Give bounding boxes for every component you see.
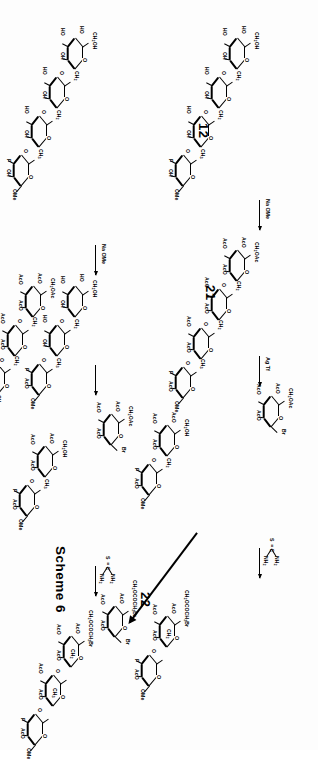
struct-donor-left-bond-c1-sub (271, 427, 278, 434)
struct-21-ring-2-c3-label: HO (42, 67, 47, 75)
struct-21-ring-1-c4-label: HO (79, 26, 84, 34)
struct-peracetyl-right-ring-2-bond-c6 (23, 330, 29, 335)
struct-partial-right-ring-3-c6-label: CH3 (54, 358, 61, 368)
struct-21-ring-1-c3-label: HO (60, 28, 65, 36)
struct-peracetyl-right-ring-2-c6-label: CH2 (30, 317, 37, 327)
struct-peracetyl-ring-4-c4-label: O (185, 361, 190, 365)
struct-peracetyl-right-ring-3-c4-label: O (0, 358, 4, 362)
struct-bromoacetate-right-ring-2-bond-c6 (61, 680, 67, 685)
struct-21-ring-3-c3-label: HO (24, 106, 29, 114)
struct-bromoacetate-right-ring-1-c6-label: CH2OCOCH2Br (86, 610, 93, 647)
struct-12-ring-1-c3-label: HO (222, 28, 227, 36)
struct-21-ring-3-c2-label: OH (24, 130, 29, 138)
struct-12-ring-2-c3-label: HO (204, 67, 209, 75)
struct-partial-right-ring-1-c3-label: HO (60, 276, 65, 284)
struct-peracetyl-ring-4-anomeric-label: OMe (174, 401, 179, 412)
struct-bromoacetate-right-ring-2-bond-c1-c2 (45, 696, 54, 706)
struct-22-c4-label: AcO (119, 593, 124, 604)
struct-22-bond-c2-c3 (107, 615, 109, 628)
compound-number-12: 12 (196, 123, 211, 138)
struct-acceptor-right-ring-2-c3-label: F (12, 489, 17, 492)
struct-bromoacetate-right-ring-1-c3-label: AcO (56, 624, 61, 635)
struct-21-ring-1-oxygen: O (82, 58, 87, 63)
struct-21-ring-4-c6-label: CH3 (36, 149, 43, 159)
struct-22-c2-label: AcO (100, 620, 105, 631)
struct-21-ring-3-bond-c2-c3 (31, 125, 33, 138)
struct-21-ring-4-c4-label: O (23, 149, 28, 153)
struct-acceptor-right-ring-1-bond-c2-c3 (37, 455, 39, 468)
struct-22-oxygen: O (122, 626, 127, 631)
struct-bromoacetate-right-ring-1-oxygen: O (78, 656, 83, 661)
struct-partial-right-ring-2-c2-label: OH (42, 339, 47, 347)
struct-peracetyl-right-ring-1-bond-c2-c3 (25, 295, 27, 308)
struct-22-bond-c6 (123, 611, 129, 616)
struct-bromoacetate-left-ring-2-bond-c6 (157, 660, 163, 665)
struct-acceptor-left-ring-2-oxygen: O (156, 484, 161, 489)
struct-acceptor-right-ring-2-c6-label: CH3 (42, 479, 49, 489)
struct-partial-right-ring-2-oxygen: O (64, 345, 69, 350)
struct-bromoacetate-right-ring-1-bond-c2-c3 (63, 645, 65, 658)
struct-22-bond-c1-c2 (107, 627, 116, 637)
struct-12-ring-3-bond-c2-c3 (193, 125, 195, 138)
struct-peracetyl-right-ring-1-c6-label: CH2OAc (48, 278, 55, 299)
scheme-caption: Scheme 6 (53, 546, 68, 613)
struct-peracetyl-right-ring-2-oxygen: O (22, 345, 27, 350)
struct-bromoacetate-right-ring-3-anomeric-label: OMe (26, 748, 31, 759)
struct-acceptor-right-ring-1-c2-label: AcO (30, 460, 35, 471)
struct-21-ring-4-c2-label: OH (6, 169, 11, 177)
struct-bromoacetate-left-ring-2-c3-label: F (134, 659, 139, 662)
struct-acceptor-left-ring-1-bond-c1-c2 (159, 446, 168, 456)
struct-bromoacetate-left-ring-1-c6-label: CH2OCOCH2Br (182, 590, 189, 627)
struct-12-ring-2-c4-label: O (221, 71, 226, 75)
struct-12-ring-3-c2-label: OH (186, 130, 191, 138)
struct-12-ring-4-c6-label: CH3 (198, 149, 205, 159)
struct-donor-left-bond-c1-c2 (263, 417, 272, 427)
struct-22-anomeric-label: Br (125, 639, 130, 645)
struct-bromoacetate-right-ring-2-c3-label: AcO (38, 663, 43, 674)
struct-bromoacetate-left-ring-2-c2-label: AcO (134, 669, 139, 680)
struct-bromoacetate-right-ring-2-c6-label: CH2 (68, 649, 75, 659)
struct-21-ring-3-c4-label: O (41, 110, 46, 114)
reagent-label-agtf: Ag Tf (265, 357, 271, 371)
struct-partial-right-ring-3-oxygen: O (46, 384, 51, 389)
struct-bromoacetate-right-ring-3-c2-label: AcO (20, 728, 25, 739)
struct-peracetyl-right-ring-1-bond-c6 (41, 291, 47, 296)
struct-bromoacetate-right-ring-3-c6-label: CH3 (50, 688, 57, 698)
struct-peracetyl-ring-1-c6-label: CH2OAc (252, 242, 259, 263)
struct-12-ring-1-c4-label: HO (241, 26, 246, 34)
struct-bromoacetate-left-ring-1-bond-c6 (175, 621, 181, 626)
struct-acceptor-left-ring-1-c4-label: AcO (171, 412, 176, 423)
struct-12-ring-3-bond-c1-c2 (193, 137, 202, 147)
struct-donor-right-oxygen: O (118, 434, 123, 439)
struct-acceptor-right-ring-2-c4-label: O (29, 479, 34, 483)
reaction-arrow-plain (95, 365, 96, 395)
struct-12-ring-4-bond-c2-c3 (175, 164, 177, 177)
struct-bromoacetate-left-ring-1-bond-c1-c2 (159, 637, 168, 647)
struct-21-ring-2-c4-label: O (59, 71, 64, 75)
struct-bromoacetate-left-ring-2-c6-label: CH2 (164, 629, 171, 639)
struct-acceptor-right-ring-1-bond-c6 (53, 451, 59, 456)
struct-12-ring-1-bond-c2-c3 (229, 47, 231, 60)
struct-12-ring-2-oxygen: O (226, 97, 231, 102)
struct-21-ring-4-anomeric-label: OMe (12, 189, 17, 200)
struct-bromoacetate-right-ring-1-bond-c1-c2 (63, 657, 72, 667)
struct-12-ring-1-oxygen: O (244, 58, 249, 63)
struct-partial-right-ring-1-bond-c1-c2 (67, 307, 76, 317)
struct-peracetyl-ring-4-oxygen: O (190, 387, 195, 392)
reaction-arrow-naome-1 (259, 200, 260, 230)
struct-acceptor-right-ring-2-bond-c2-c3 (19, 494, 21, 507)
struct-12-ring-2-bond-c6 (227, 82, 233, 87)
struct-12-ring-3-c4-label: O (203, 110, 208, 114)
struct-21-ring-2-bond-c2-c3 (49, 86, 51, 99)
struct-peracetyl-right-ring-1-c2-label: AcO (18, 300, 23, 311)
struct-12-ring-1-c2-label: OH (222, 52, 227, 60)
struct-peracetyl-right-ring-3-bond-c6 (5, 369, 11, 374)
struct-peracetyl-ring-3-c3-label: AcO (186, 316, 191, 327)
struct-peracetyl-ring-1-c3-label: AcO (222, 238, 227, 249)
struct-peracetyl-right-ring-1-c3-label: AcO (18, 274, 23, 285)
struct-12-ring-4-bond-c6 (191, 160, 197, 165)
struct-donor-left-oxygen: O (278, 416, 283, 421)
struct-donor-left-c6-label: CH2OAc (286, 388, 293, 409)
struct-21-ring-2-c6-label: CH2 (72, 71, 79, 81)
